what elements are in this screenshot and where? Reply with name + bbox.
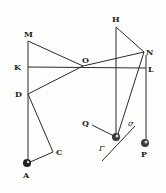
ball-center-highlight	[116, 135, 119, 138]
label-N: N	[146, 47, 153, 57]
line-HN	[116, 27, 144, 52]
line-DC	[28, 94, 53, 152]
ball-A-highlight	[27, 161, 30, 164]
line-MO	[28, 41, 83, 66]
label-sigma: σ	[128, 119, 134, 128]
ball-A	[23, 159, 31, 167]
diagram-figure: M K D A C O H N L P Q σ Γ	[0, 0, 166, 193]
label-Q: Q	[82, 118, 89, 128]
label-D: D	[15, 89, 22, 99]
label-L: L	[148, 64, 154, 74]
label-P: P	[141, 149, 147, 159]
label-H: H	[112, 14, 120, 24]
label-O: O	[82, 55, 89, 65]
label-A: A	[22, 170, 30, 180]
label-M: M	[24, 29, 33, 39]
line-DO	[28, 66, 83, 94]
label-K: K	[14, 62, 22, 72]
ball-P-highlight	[145, 141, 148, 144]
line-Q	[92, 125, 114, 136]
label-gamma: Γ	[98, 144, 105, 153]
line-KL	[28, 67, 146, 68]
label-C: C	[56, 147, 62, 157]
line-ON	[83, 52, 144, 66]
line-CA	[28, 152, 53, 163]
diagram-canvas: M K D A C O H N L P Q σ Γ	[0, 0, 166, 193]
